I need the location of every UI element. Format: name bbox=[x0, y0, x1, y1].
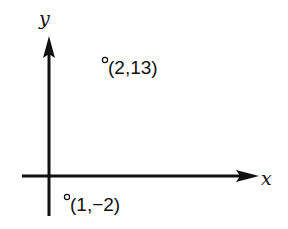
x-axis-label: x bbox=[261, 167, 272, 189]
coordinate-plane: y x (2,13) (1,−2) bbox=[0, 0, 288, 229]
point-marker bbox=[64, 194, 69, 199]
point-marker bbox=[102, 57, 107, 62]
y-axis-label: y bbox=[38, 7, 50, 29]
point-label: (2,13) bbox=[108, 57, 158, 78]
point-label: (1,−2) bbox=[70, 194, 120, 215]
